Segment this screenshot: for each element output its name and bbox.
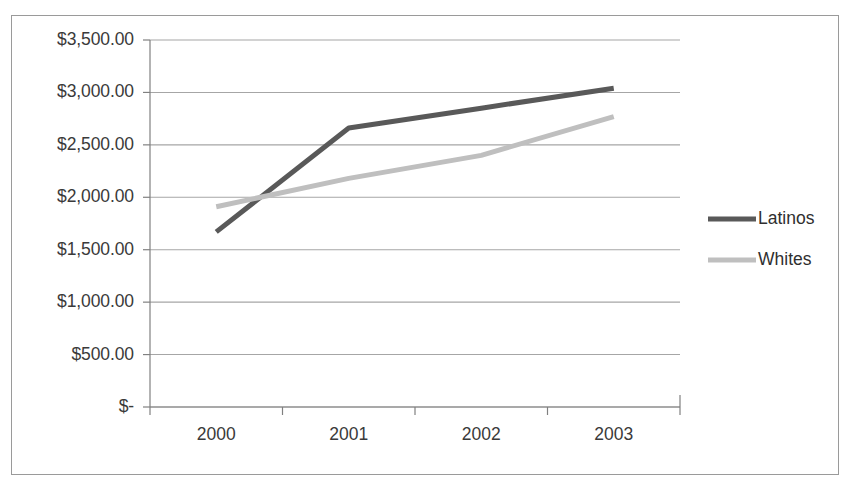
legend-label-whites: Whites	[758, 251, 811, 269]
y-axis-tick-label: $2,500.00	[0, 136, 134, 154]
y-axis-tick-label: $3,000.00	[0, 83, 134, 101]
x-axis-tick-label: 2001	[283, 426, 416, 444]
y-axis-tick-label: $1,000.00	[0, 293, 134, 311]
legend-swatches-group	[708, 219, 756, 260]
y-axis-tick-label: $2,000.00	[0, 188, 134, 206]
series-line-latinos	[216, 88, 614, 232]
y-axis-tick-label: $1,500.00	[0, 241, 134, 259]
x-axis-tick-label: 2002	[415, 426, 548, 444]
data-series-group	[216, 88, 614, 232]
line-chart-figure: $3,500.00$3,000.00$2,500.00$2,000.00$1,5…	[0, 0, 850, 494]
y-axis-tick-label: $500.00	[0, 346, 134, 364]
y-axis-tick-label: $3,500.00	[0, 31, 134, 49]
x-axis-tick-label: 2003	[548, 426, 681, 444]
legend-label-latinos: Latinos	[758, 210, 814, 228]
x-axis-tick-label: 2000	[150, 426, 283, 444]
series-line-whites	[216, 117, 614, 207]
y-axis-tick-label: $-	[0, 398, 134, 416]
